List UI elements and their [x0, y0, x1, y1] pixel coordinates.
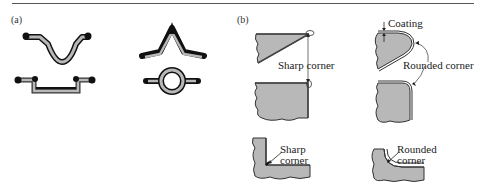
rounded-square-part — [376, 66, 425, 122]
sharp-square-part — [255, 79, 312, 120]
rounded-corner-label-top: Rounded corner — [403, 59, 474, 71]
ring-with-tabs — [146, 70, 198, 92]
corner-label-bottom-left: corner — [280, 154, 308, 166]
peaked-strip — [142, 22, 204, 57]
sharp-corner-label-top: Sharp corner — [278, 59, 335, 71]
corner-label-bottom-right: corner — [397, 154, 425, 166]
coating-label: Coating — [388, 17, 423, 29]
hat-channel-deep — [23, 33, 92, 63]
hat-channel-shallow — [15, 76, 96, 91]
sharp-wedge-part — [255, 31, 314, 81]
